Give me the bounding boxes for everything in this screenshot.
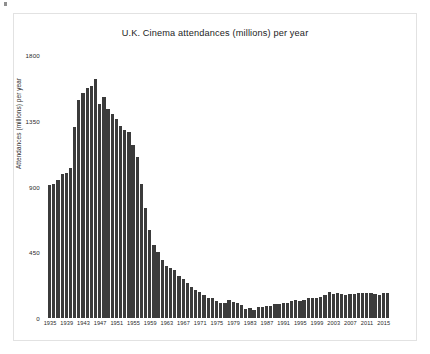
bar-1996 [302,300,305,318]
bar-1970 [194,290,197,318]
bar-1944 [86,88,89,318]
x-tick-label-1975: 1975 [210,320,223,326]
bar-1991 [282,303,285,318]
bar-1937 [56,180,59,318]
bar-1981 [240,305,243,318]
x-tick-label-2007: 2007 [344,320,357,326]
bar-1979 [232,302,235,318]
bar-2006 [344,295,347,318]
bar-1985 [257,307,260,318]
bar-1986 [261,307,264,318]
x-tick-label-1995: 1995 [294,320,307,326]
bar-2008 [353,294,356,318]
bar-1956 [136,157,139,318]
bar-1980 [236,303,239,318]
chart-page: U.K. Cinema attendances (millions) per y… [0,0,430,354]
bar-1946 [94,79,97,318]
bar-1999 [315,298,318,318]
bar-1969 [190,287,193,318]
bar-2001 [323,295,326,318]
bar-1948 [102,97,105,318]
bar-1978 [227,300,230,318]
bar-2012 [369,293,372,318]
x-tick-label-2003: 2003 [327,320,340,326]
bar-1938 [61,174,64,318]
bar-1971 [198,292,201,318]
x-tick-label-1967: 1967 [177,320,190,326]
bar-1942 [77,100,80,318]
bar-1941 [73,127,76,318]
bar-2002 [328,292,331,318]
bar-2007 [348,294,351,318]
bar-1953 [123,130,126,318]
bar-1992 [286,303,289,318]
bar-2016 [386,293,389,318]
bar-1943 [81,93,84,318]
x-tick-label-1939: 1939 [60,320,73,326]
x-tick-label-1959: 1959 [144,320,157,326]
bar-1960 [152,245,155,318]
x-tick-label-1971: 1971 [194,320,207,326]
bar-1972 [202,295,205,318]
x-tick-label-2011: 2011 [361,320,373,326]
bar-1961 [156,252,159,318]
bar-1935 [48,185,51,318]
bar-2009 [357,293,360,318]
bar-2004 [336,293,339,318]
bar-1988 [269,306,272,318]
plot-area [48,55,390,318]
bar-1950 [111,114,114,318]
bar-1955 [131,145,134,318]
bar-1998 [311,298,314,318]
x-tick-label-1943: 1943 [77,320,90,326]
bar-1945 [90,86,93,318]
bar-1993 [290,301,293,318]
y-tick-label-1350: 1350 [25,117,40,124]
bar-2010 [361,293,364,318]
x-tick-label-1951: 1951 [110,320,123,326]
bar-1995 [298,301,301,318]
y-tick-label-450: 450 [29,249,40,256]
y-axis-tick-labels: 045090013501800 [0,55,44,318]
bar-1989 [273,304,276,318]
bar-series [48,55,390,318]
bar-1957 [140,184,143,318]
bar-1954 [127,132,130,318]
bar-1949 [106,109,109,318]
bar-1940 [69,168,72,318]
bar-1973 [207,298,210,318]
bar-1967 [182,279,185,318]
bar-1963 [165,266,168,318]
bar-1974 [211,298,214,318]
bar-1994 [294,300,297,318]
x-tick-label-1947: 1947 [94,320,107,326]
bar-1977 [223,303,226,318]
bar-1959 [148,230,151,318]
x-tick-label-1963: 1963 [160,320,173,326]
bar-1983 [248,308,251,318]
scan-artifact-speck [4,2,7,6]
bar-1936 [52,184,55,318]
bar-2005 [340,294,343,318]
y-tick-label-1800: 1800 [25,52,40,59]
x-tick-label-1935: 1935 [44,320,57,326]
bar-2014 [378,295,381,318]
bar-1968 [186,283,189,318]
bar-2011 [365,293,368,318]
chart-title: U.K. Cinema attendances (millions) per y… [0,28,430,38]
bar-2000 [319,297,322,318]
x-tick-label-1955: 1955 [127,320,140,326]
bar-1962 [161,260,164,318]
x-tick-label-2015: 2015 [377,320,390,326]
bar-1964 [169,268,172,318]
y-tick-label-0: 0 [36,315,40,322]
bar-2003 [332,294,335,318]
x-axis-tick-labels: 1935193919431947195119551959196319671971… [48,320,390,332]
bar-1966 [177,276,180,318]
x-tick-label-1991: 1991 [277,320,290,326]
bar-2015 [382,293,385,318]
bar-1965 [173,270,176,318]
bar-1947 [98,104,101,318]
y-tick-label-900: 900 [29,183,40,190]
bar-1984 [252,310,255,318]
